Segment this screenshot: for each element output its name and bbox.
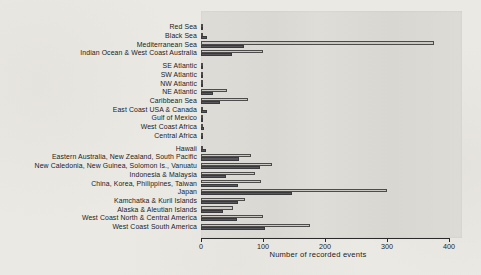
category-label: Kamchatka & Kuril Islands: [0, 197, 197, 205]
category-label: Mediterranean Sea: [0, 41, 197, 49]
bar-dark: [201, 157, 239, 160]
bar-dark: [201, 127, 204, 130]
bar-dark: [201, 175, 226, 178]
category-label: West Coast Africa: [0, 123, 197, 131]
bar-dark: [201, 75, 203, 78]
bar-dark: [201, 53, 232, 56]
bar-dark: [201, 101, 220, 104]
category-label: Central Africa: [0, 132, 197, 140]
category-label: SW Atlantic: [0, 71, 197, 79]
x-tick-label: 400: [434, 242, 464, 251]
category-label: Japan: [0, 188, 197, 196]
tsunami-events-chart: Red SeaBlack SeaMediterranean SeaIndian …: [0, 0, 481, 275]
bar-dark: [201, 201, 238, 204]
bar-dark: [201, 84, 203, 87]
bar-dark: [201, 118, 203, 121]
category-label: SE Atlantic: [0, 62, 197, 70]
x-axis-label: Number of recorded events: [198, 250, 438, 259]
category-label: Gulf of Mexico: [0, 114, 197, 122]
bar-dark: [201, 218, 237, 221]
category-label: NW Atlantic: [0, 80, 197, 88]
bar-dark: [201, 136, 203, 139]
category-label: West Coast North & Central America: [0, 214, 197, 222]
bar-dark: [201, 149, 206, 152]
category-label: Hawaii: [0, 145, 197, 153]
category-label: East Coast USA & Canada: [0, 106, 197, 114]
bar-dark: [201, 110, 207, 113]
bar-dark: [201, 227, 265, 230]
category-label: Caribbean Sea: [0, 97, 197, 105]
category-label: West Coast South America: [0, 223, 197, 231]
category-label: New Caledonia, New Guinea, Solomon Is., …: [0, 162, 197, 170]
bar-dark: [201, 92, 213, 95]
category-label: Indonesia & Malaysia: [0, 171, 197, 179]
bar-dark: [201, 27, 203, 30]
category-label: Eastern Australia, New Zealand, South Pa…: [0, 153, 197, 161]
category-label: Indian Ocean & West Coast Australia: [0, 49, 197, 57]
bar-dark: [201, 192, 292, 195]
category-label: Black Sea: [0, 32, 197, 40]
bar-dark: [201, 210, 223, 213]
category-label: China, Korea, Philippines, Taiwan: [0, 180, 197, 188]
category-label: NE Atlantic: [0, 88, 197, 96]
bar-dark: [201, 66, 203, 69]
category-label: Alaska & Aleutian Islands: [0, 206, 197, 214]
bar-dark: [201, 36, 207, 39]
bar-dark: [201, 184, 238, 187]
bar-dark: [201, 45, 244, 48]
bar-dark: [201, 166, 260, 169]
category-label: Red Sea: [0, 23, 197, 31]
